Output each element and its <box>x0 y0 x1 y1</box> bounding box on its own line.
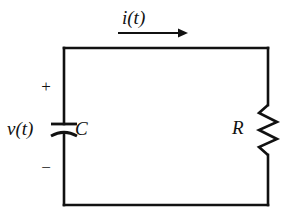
capacitor-label: C <box>75 119 88 138</box>
resistor-zigzag <box>259 105 277 155</box>
polarity-plus-sign: + <box>38 78 54 95</box>
current-label: i(t) <box>122 8 145 27</box>
circuit-diagram: i(t) v(t) C R + − <box>0 0 288 220</box>
polarity-minus-sign: − <box>38 159 54 176</box>
current-arrow-head <box>178 29 188 38</box>
circuit-schematic-canvas <box>0 0 288 220</box>
resistor-label: R <box>232 118 244 137</box>
voltage-label: v(t) <box>7 119 33 138</box>
